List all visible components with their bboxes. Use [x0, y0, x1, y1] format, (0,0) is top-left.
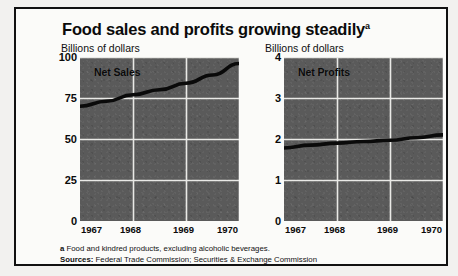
y-axis-caption-left: Billions of dollars [61, 42, 239, 54]
y-tick-label: 100 [53, 51, 77, 63]
x-tick-label: 1970 [217, 224, 238, 235]
x-tick-label: 1970 [421, 224, 442, 235]
series-label-net-sales: Net Sales [94, 66, 140, 78]
x-tick-label: 1968 [324, 224, 345, 235]
y-tick-label: 4 [257, 51, 281, 63]
figure-title-footnote-mark: a [365, 21, 370, 31]
footnote-note-text: Food and kindred products, excluding alc… [67, 244, 270, 253]
x-tick-label: 1969 [173, 224, 194, 235]
x-tick-label: 1967 [81, 224, 102, 235]
y-tick-label: 1 [257, 174, 281, 186]
plot-area-net-sales: Net Sales [80, 57, 239, 221]
footnote-mark: a [60, 244, 64, 253]
line-chart-svg-net-sales [80, 57, 239, 221]
series-label-net-profits: Net Profits [298, 66, 350, 78]
y-axis-caption-right: Billions of dollars [265, 42, 443, 54]
chart-figure: Food sales and profits growing steadilya… [0, 0, 458, 276]
footnote-sources: Sources: Federal Trade Commission; Secur… [60, 255, 450, 266]
chart-net-sales: Net Sales 0255075100 1967196819691970 [54, 57, 239, 242]
footnote-note: a Food and kindred products, excluding a… [60, 244, 450, 255]
y-tick-label: 25 [53, 174, 77, 186]
plot-area-net-profits: Net Profits [284, 57, 443, 221]
figure-border: Food sales and profits growing steadilya… [14, 7, 448, 266]
y-tick-label: 75 [53, 92, 77, 104]
footnote-sources-label: Sources: [60, 255, 93, 264]
footnotes-block: a Food and kindred products, excluding a… [60, 244, 450, 265]
y-tick-label: 0 [53, 215, 77, 227]
figure-title: Food sales and profits growing steadilya [62, 20, 370, 39]
footnote-sources-text: Federal Trade Commission; Securities & E… [96, 255, 317, 264]
y-tick-label: 3 [257, 92, 281, 104]
y-tick-label: 0 [257, 215, 281, 227]
y-tick-label: 2 [257, 133, 281, 145]
x-tick-label: 1969 [377, 224, 398, 235]
x-tick-label: 1968 [120, 224, 141, 235]
panel-net-sales: Billions of dollars Net Sales 0255075100… [54, 42, 239, 242]
panel-net-profits: Billions of dollars Net Profits 01234 19… [258, 42, 443, 242]
figure-title-text: Food sales and profits growing steadily [62, 20, 365, 38]
data-line-net-profits [284, 135, 443, 148]
chart-net-profits: Net Profits 01234 1967196819691970 [258, 57, 443, 242]
line-chart-svg-net-profits [284, 57, 443, 221]
y-tick-label: 50 [53, 133, 77, 145]
x-tick-label: 1967 [285, 224, 306, 235]
